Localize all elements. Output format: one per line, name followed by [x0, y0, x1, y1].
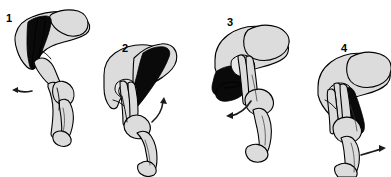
rotation-arrow-head-4	[379, 145, 386, 152]
rotation-arrow-path-2	[152, 102, 163, 122]
panel-1: 1	[6, 10, 90, 146]
rotation-arrow-head-3	[226, 112, 233, 119]
panel-4: 4	[318, 42, 391, 177]
panel-number-3: 3	[227, 16, 233, 28]
rotation-arrow-head-1	[12, 87, 18, 93]
panel-number-1: 1	[6, 12, 12, 24]
anatomy-illustration: 1	[0, 0, 391, 177]
panel-number-2: 2	[122, 42, 128, 54]
panel-3: 3	[212, 16, 289, 162]
figure-container: 1	[0, 0, 391, 177]
distal-end-3	[246, 144, 268, 162]
rotation-arrow-path-1	[17, 90, 32, 92]
panel-2: 2	[104, 42, 177, 176]
iliac-crest-4	[347, 52, 391, 87]
panel-number-4: 4	[341, 42, 348, 54]
rotation-arrow-path-4	[361, 149, 381, 155]
rotation-arrow-head-2	[160, 97, 167, 104]
